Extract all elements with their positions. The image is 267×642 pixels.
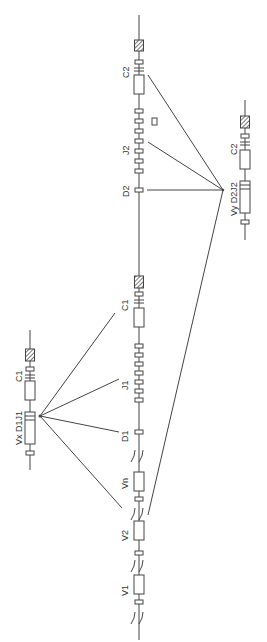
break-icon — [131, 508, 143, 520]
rearrangement-diagram — [0, 0, 267, 642]
c2-gene-box — [134, 75, 144, 94]
d1-box — [135, 430, 143, 434]
label-c1: C1 — [121, 299, 130, 311]
vn-box — [134, 472, 144, 491]
left-rearranged-construct — [25, 330, 35, 470]
label-c2: C2 — [122, 66, 131, 78]
c2-switch-box — [135, 60, 143, 64]
break-icon — [131, 612, 143, 624]
c1-hatched-block — [135, 276, 144, 288]
c1-gene-box — [134, 308, 144, 327]
label-v1: V1 — [121, 585, 130, 596]
break-icon — [131, 560, 143, 572]
main-locus — [131, 15, 157, 640]
break-icon — [131, 450, 143, 462]
label-d2: D2 — [122, 185, 131, 197]
d2-box — [135, 188, 143, 192]
label-j1: J1 — [121, 380, 130, 390]
connector-lines-left — [40, 313, 122, 508]
label-left-vdj: Vx D1J1 — [15, 411, 24, 445]
j2-side-box — [152, 118, 157, 125]
right-rearranged-construct — [240, 100, 250, 240]
label-right-c2: C2 — [230, 143, 239, 155]
v1-box — [134, 575, 144, 594]
connector-lines-right — [147, 75, 223, 515]
label-vn: Vn — [121, 478, 130, 489]
label-j2: J2 — [122, 145, 131, 155]
label-left-c1: C1 — [15, 370, 24, 382]
label-d1: D1 — [121, 430, 130, 442]
c2-hatched-block — [135, 40, 144, 51]
label-v2: V2 — [121, 530, 130, 541]
label-right-vdj: Vy D2J2 — [230, 182, 239, 216]
v2-box — [134, 521, 144, 540]
